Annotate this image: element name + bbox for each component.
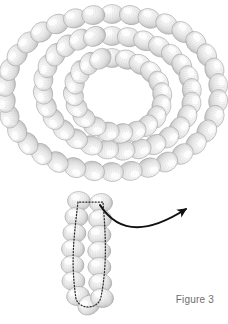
bead-cluster [0,3,228,319]
figure-caption: Figure 3 [176,294,214,306]
figure-illustration [0,0,228,324]
callout-arrow [100,205,186,227]
bead-tail-right [88,193,115,309]
figure-container: Figure 3 [0,0,228,324]
